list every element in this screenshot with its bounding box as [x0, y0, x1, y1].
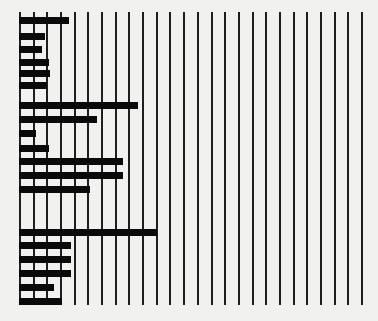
bar-18	[19, 284, 54, 291]
gridline	[224, 12, 226, 305]
gridline	[142, 12, 144, 305]
gridline	[293, 12, 295, 305]
gridline	[347, 12, 349, 305]
bar-1	[19, 17, 69, 24]
horizontal-bar-chart	[0, 0, 378, 321]
bar-10	[19, 145, 49, 152]
gridline	[265, 12, 267, 305]
gridline	[306, 12, 308, 305]
gridline	[183, 12, 185, 305]
gridline	[334, 12, 336, 305]
gridline	[252, 12, 254, 305]
bar-15	[19, 242, 71, 249]
gridline	[156, 12, 158, 305]
gridline	[169, 12, 171, 305]
bar-4	[19, 59, 49, 66]
gridline	[211, 12, 213, 305]
gridline	[279, 12, 281, 305]
gridline	[128, 12, 130, 305]
bar-14	[19, 229, 157, 236]
bar-17	[19, 270, 71, 277]
bar-3	[19, 46, 42, 53]
bar-5	[19, 70, 50, 77]
bar-9	[19, 130, 36, 137]
bar-16	[19, 256, 71, 263]
gridline	[238, 12, 240, 305]
gridline	[320, 12, 322, 305]
bar-7	[19, 102, 138, 109]
gridline	[197, 12, 199, 305]
bar-6	[19, 82, 47, 89]
gridline	[361, 12, 363, 305]
bar-12	[19, 172, 123, 179]
bar-2	[19, 33, 45, 40]
bar-19	[19, 298, 62, 305]
bar-8	[19, 116, 97, 123]
bar-13	[19, 186, 90, 193]
bar-11	[19, 158, 123, 165]
